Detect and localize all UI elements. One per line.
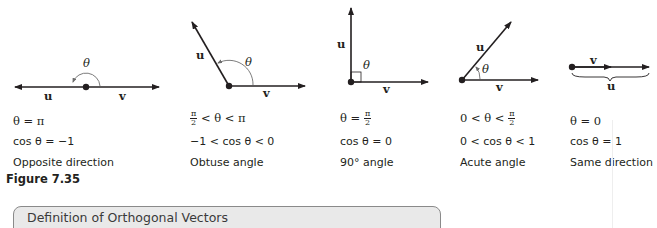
label-u: u bbox=[44, 89, 52, 103]
panel-acute-diagram bbox=[459, 22, 538, 83]
origin-dot bbox=[348, 79, 354, 85]
label-u: u bbox=[337, 37, 345, 51]
label-v: v bbox=[496, 80, 503, 94]
origin-dot bbox=[569, 64, 575, 70]
theta-relation: θ = 0 bbox=[570, 114, 601, 128]
label-u: u bbox=[476, 40, 484, 54]
cos-relation: cos θ = −1 bbox=[13, 135, 74, 148]
cos-relation: cos θ = 1 bbox=[570, 135, 622, 148]
figure-caption: Figure 7.35 bbox=[6, 172, 80, 186]
page-divider bbox=[612, 120, 613, 228]
figure-7-35-diagrams bbox=[0, 0, 657, 130]
label-v: v bbox=[590, 53, 597, 67]
theta-relation: 0 < θ < π2 bbox=[460, 110, 515, 127]
origin-dot bbox=[83, 84, 89, 90]
label-u: u bbox=[196, 48, 204, 62]
theta-relation: π2 < θ < π bbox=[190, 110, 246, 127]
cos-relation: cos θ = 0 bbox=[340, 135, 392, 148]
angle-arc bbox=[476, 67, 480, 79]
label-v: v bbox=[263, 86, 270, 100]
description: Acute angle bbox=[460, 156, 525, 169]
origin-dot bbox=[459, 77, 465, 83]
label-u: u bbox=[607, 79, 615, 93]
panel-opposite-diagram bbox=[15, 73, 159, 90]
theta-relation: θ = π bbox=[13, 114, 44, 128]
label-theta: θ bbox=[245, 55, 252, 69]
label-v: v bbox=[383, 82, 390, 96]
description: Obtuse angle bbox=[190, 156, 263, 169]
origin-dot bbox=[226, 83, 232, 89]
description: Opposite direction bbox=[13, 156, 114, 169]
fraction: π2 bbox=[508, 110, 515, 127]
fraction: π2 bbox=[364, 110, 371, 127]
definition-title: Definition of Orthogonal Vectors bbox=[27, 210, 228, 225]
label-theta: θ bbox=[363, 58, 370, 72]
theta-relation: θ = π2 bbox=[340, 110, 371, 127]
label-theta: θ bbox=[482, 62, 489, 76]
cos-relation: 0 < cos θ < 1 bbox=[460, 135, 535, 148]
label-theta: θ bbox=[83, 56, 90, 70]
panel-right-diagram bbox=[348, 8, 428, 85]
label-v: v bbox=[119, 89, 126, 103]
description: 90° angle bbox=[340, 156, 394, 169]
cos-relation: −1 < cos θ < 0 bbox=[190, 135, 274, 148]
definition-box: Definition of Orthogonal Vectors bbox=[13, 206, 441, 228]
